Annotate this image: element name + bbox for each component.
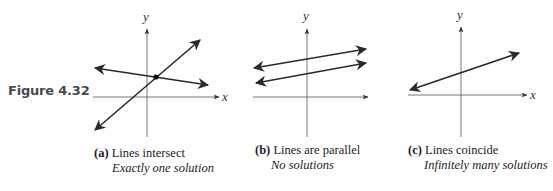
panel-subtitle: Exactly one solution [94, 161, 214, 176]
coinciding-line [410, 53, 519, 90]
panel-a-caption: (a) Lines intersect Exactly one solution [94, 146, 214, 176]
panel-c-caption: (c) Lines coincide Infinitely many solut… [408, 143, 548, 173]
panel-tag: (c) [408, 143, 422, 157]
upper-parallel-line [254, 49, 366, 68]
x-axis-label: x [221, 89, 228, 104]
panel-a-plot: x y [93, 9, 228, 137]
panel-subtitle: No solutions [255, 158, 360, 173]
panel-b-caption: (b) Lines are parallel No solutions [255, 143, 360, 173]
panel-tag: (b) [255, 143, 270, 157]
y-axis-label: y [301, 8, 309, 23]
y-axis-label: y [141, 9, 149, 24]
lower-parallel-line [256, 63, 366, 83]
panel-title: Lines coincide [425, 143, 498, 157]
panel-subtitle: Infinitely many solutions [408, 158, 548, 173]
y-axis-label: y [455, 7, 463, 22]
panel-tag: (a) [94, 146, 109, 160]
x-axis-label: x [529, 87, 536, 102]
intersection-point [153, 74, 158, 79]
panel-title: Lines intersect [112, 146, 185, 160]
panel-b-plot: y [253, 8, 368, 137]
panel-title: Lines are parallel [273, 143, 360, 157]
panel-c-plot: x y [408, 7, 536, 137]
